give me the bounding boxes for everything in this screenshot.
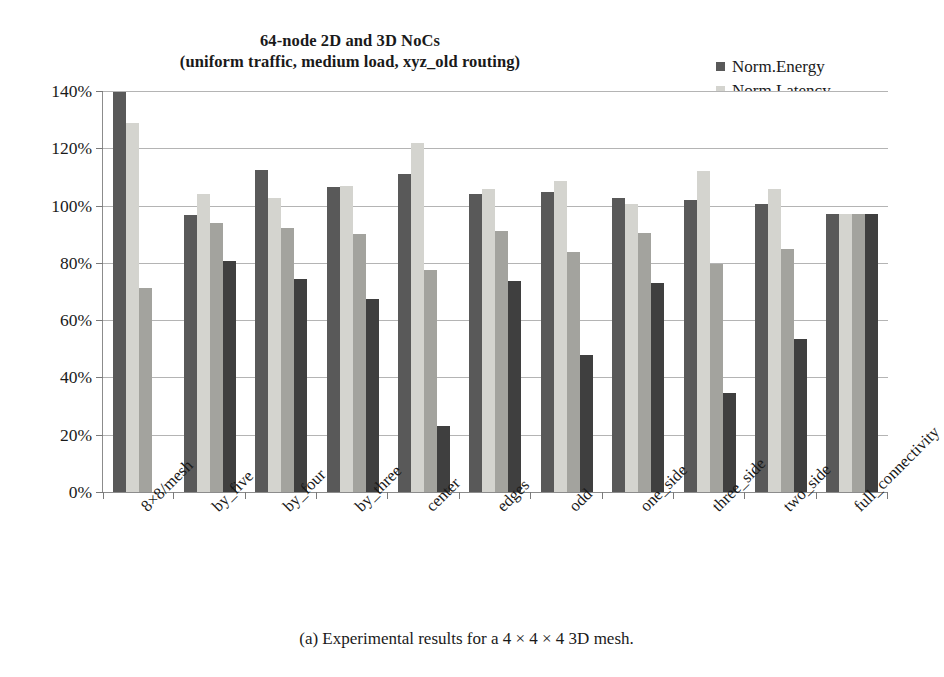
bar: [567, 252, 580, 492]
bar: [625, 204, 638, 492]
bar: [580, 355, 593, 492]
bar: [184, 215, 197, 492]
bar: [612, 198, 625, 492]
bar-group: [674, 91, 745, 492]
x-label-cell: two_side: [745, 500, 816, 610]
bar: [508, 281, 521, 492]
bar-group: [531, 91, 602, 492]
x-label-cell: by_five: [174, 500, 245, 610]
bar: [541, 192, 554, 492]
bar: [826, 214, 839, 492]
y-tick-label: 60%: [2, 310, 103, 331]
bar: [223, 261, 236, 492]
bar-group: [460, 91, 531, 492]
bar: [482, 189, 495, 492]
bar: [353, 234, 366, 492]
x-label-cell: by_three: [317, 500, 388, 610]
bar: [469, 194, 482, 492]
bar: [768, 189, 781, 492]
legend-swatch-icon: [716, 62, 725, 71]
bar: [281, 228, 294, 492]
bar: [684, 200, 697, 492]
x-label-cell: edges: [460, 500, 531, 610]
bar: [327, 187, 340, 492]
legend-item: Norm.Energy: [716, 57, 831, 76]
bar-group: [388, 91, 459, 492]
bar: [366, 299, 379, 492]
x-label-cell: 8×8/mesh: [103, 500, 174, 610]
figure-caption: (a) Experimental results for a 4 × 4 × 4…: [0, 629, 933, 649]
bar: [781, 249, 794, 492]
bar: [294, 279, 307, 492]
x-tick-mark: [602, 492, 603, 499]
x-axis-labels: 8×8/meshby_fiveby_fourby_threecenteredge…: [103, 500, 888, 610]
x-tick-mark: [103, 492, 104, 499]
bar: [255, 170, 268, 492]
x-label-cell: odd: [531, 500, 602, 610]
bar: [755, 204, 768, 492]
bar-group: [603, 91, 674, 492]
y-tick-label: 0%: [2, 482, 103, 503]
x-label-cell: center: [388, 500, 459, 610]
bar: [411, 143, 424, 492]
y-tick-label: 40%: [2, 367, 103, 388]
bar: [340, 186, 353, 492]
legend-label: Norm.Energy: [732, 57, 825, 76]
x-label-cell: by_four: [246, 500, 317, 610]
bar: [710, 264, 723, 492]
bar: [697, 171, 710, 492]
bar-group: [174, 91, 245, 492]
y-tick-label: 120%: [2, 138, 103, 159]
chart-title: 64-node 2D and 3D NoCs (uniform traffic,…: [0, 30, 700, 73]
x-label-cell: one_side: [603, 500, 674, 610]
bar-group: [817, 91, 888, 492]
bar: [268, 198, 281, 492]
plot-area: 0%20%40%60%80%100%120%140%: [103, 91, 888, 492]
x-tick-mark: [530, 492, 531, 499]
y-tick-label: 140%: [2, 81, 103, 102]
x-label-cell: three_side: [674, 500, 745, 610]
bar: [839, 214, 852, 492]
bar: [651, 283, 664, 492]
y-tick-label: 80%: [2, 252, 103, 273]
bar: [126, 123, 139, 492]
bar: [113, 92, 126, 492]
chart-title-line-2: (uniform traffic, medium load, xyz_old r…: [0, 51, 700, 72]
bar: [554, 181, 567, 492]
bar-group: [103, 91, 174, 492]
bar: [495, 231, 508, 492]
bar-group: [246, 91, 317, 492]
bar: [638, 233, 651, 492]
bar: [197, 194, 210, 492]
bar-group: [745, 91, 816, 492]
bar: [210, 223, 223, 492]
bar: [398, 174, 411, 493]
x-label-cell: full_connectivity: [817, 500, 888, 610]
bar-group: [317, 91, 388, 492]
bar: [139, 288, 152, 492]
bar: [852, 214, 865, 492]
bar: [794, 339, 807, 492]
y-tick-label: 100%: [2, 195, 103, 216]
y-tick-label: 20%: [2, 424, 103, 445]
bar-groups: [103, 91, 888, 492]
chart-title-line-1: 64-node 2D and 3D NoCs: [0, 30, 700, 51]
bar: [424, 270, 437, 492]
bar: [865, 214, 878, 492]
